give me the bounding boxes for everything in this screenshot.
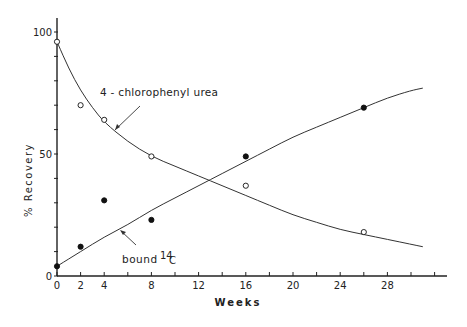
annotation-bound-c: C — [169, 255, 176, 266]
x-axis-label: Weeks — [215, 297, 262, 308]
data-points — [54, 39, 366, 269]
bound-fit-curve — [57, 88, 423, 266]
x-tick-label: 16 — [239, 280, 252, 291]
filled-circle-point — [361, 105, 366, 110]
annotations: 4 - chlorophenyl urea bound 14 C — [100, 86, 218, 266]
open-circle-point — [54, 39, 59, 44]
x-tick-label: 0 — [54, 280, 60, 291]
open-circle-point — [243, 183, 248, 188]
fit-curves — [57, 42, 423, 266]
filled-circle-point — [102, 198, 107, 203]
open-circle-point — [149, 154, 154, 159]
ticks: 02481216202428050100 — [33, 27, 435, 291]
open-circle-point — [102, 117, 107, 122]
x-tick-label: 20 — [287, 280, 300, 291]
urea-fit-curve — [57, 42, 423, 247]
annotation-bound-label: bound — [122, 253, 158, 265]
x-tick-label: 24 — [334, 280, 347, 291]
filled-circle-point — [54, 264, 59, 269]
chart: 02481216202428050100 4 - chlorophenyl ur… — [0, 0, 467, 327]
filled-circle-point — [243, 154, 248, 159]
x-tick-label: 4 — [101, 280, 107, 291]
filled-circle-point — [78, 244, 83, 249]
x-tick-label: 8 — [148, 280, 154, 291]
axes — [57, 18, 447, 276]
x-tick-label: 12 — [192, 280, 205, 291]
y-tick-label: 100 — [33, 27, 52, 38]
open-circle-point — [78, 103, 83, 108]
x-tick-label: 2 — [77, 280, 83, 291]
arrowhead-icon — [115, 124, 120, 130]
y-tick-label: 50 — [39, 149, 52, 160]
open-circle-point — [361, 229, 366, 234]
annotation-urea-label: 4 - chlorophenyl urea — [100, 86, 218, 98]
y-axis-label: % Recovery — [23, 143, 34, 217]
x-tick-label: 28 — [381, 280, 394, 291]
filled-circle-point — [149, 217, 154, 222]
y-tick-label: 0 — [46, 271, 52, 282]
